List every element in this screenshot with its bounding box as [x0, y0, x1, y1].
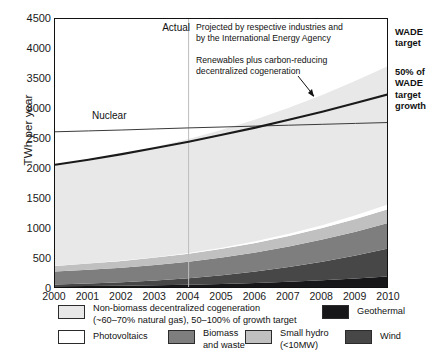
legend-label-non-biomass-line1: Non-biomass decentralized cogeneration [93, 303, 308, 315]
legend-swatch-wind [345, 330, 372, 344]
annotation-renewables-line2: decentralized cogeneration [196, 66, 371, 77]
legend-label-non-biomass-line2: (~60–70% natural gas), 50–100% of growth… [93, 315, 308, 327]
label-wade-growth: 50% of WADE target growth [395, 67, 426, 112]
legend-label-small-hydro-line1: Small hydro [280, 328, 342, 340]
legend-swatch-photovoltaics [58, 330, 85, 344]
y-tick-3000: 3000 [5, 103, 51, 114]
stacked-area-layer [55, 66, 388, 289]
annotation-renewables-line1: Renewables plus carbon-reducing [196, 55, 371, 66]
label-wade-target-line2: target [395, 38, 423, 49]
y-tick-2500: 2500 [5, 133, 51, 144]
legend-swatch-non-biomass-cogeneration [58, 305, 85, 319]
y-tick-4500: 4500 [5, 13, 51, 24]
legend-label-photovoltaics: Photovoltaics [93, 331, 148, 343]
legend-label-wind: Wind [380, 331, 401, 343]
annotation-nuclear: Nuclear [92, 110, 126, 123]
legend-swatch-biomass-and-waste [168, 330, 195, 344]
legend-label-small-hydro: Small hydro (<10MW) [280, 328, 342, 351]
y-tick-1000: 1000 [5, 223, 51, 234]
label-wade-growth-line3: target [395, 90, 426, 101]
annotation-projected-line2: by the International Energy Agency [196, 33, 381, 44]
annotation-projected: Projected by respective industries and b… [196, 22, 381, 44]
legend-swatch-geothermal [322, 305, 349, 319]
legend-label-small-hydro-line2: (<10MW) [280, 340, 342, 352]
y-tick-3500: 3500 [5, 73, 51, 84]
label-wade-growth-line4: growth [395, 101, 426, 112]
label-wade-growth-line1: 50% of [395, 67, 426, 78]
legend-label-geothermal: Geothermal [357, 306, 405, 318]
legend-swatch-small-hydro [245, 330, 272, 344]
annotation-renewables: Renewables plus carbon-reducing decentra… [196, 55, 371, 77]
legend-label-non-biomass-cogeneration: Non-biomass decentralized cogeneration (… [93, 303, 308, 326]
y-tick-1500: 1500 [5, 193, 51, 204]
y-tick-500: 500 [5, 253, 51, 264]
y-tick-4000: 4000 [5, 43, 51, 54]
chart-legend: Non-biomass decentralized cogeneration (… [0, 300, 446, 357]
annotation-arrow-icon [296, 74, 326, 104]
label-wade-growth-line2: WADE [395, 78, 426, 89]
label-wade-target-line1: WADE [395, 27, 423, 38]
annotation-actual: Actual [146, 22, 190, 35]
y-tick-2000: 2000 [5, 163, 51, 174]
label-wade-target: WADE target [395, 27, 423, 50]
annotation-projected-line1: Projected by respective industries and [196, 22, 381, 33]
